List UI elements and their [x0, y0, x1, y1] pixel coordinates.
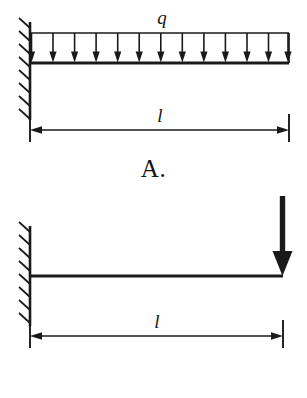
- load-arrow: [93, 33, 100, 63]
- udl-arrows-a: [28, 33, 292, 63]
- load-arrow: [157, 33, 164, 63]
- figure-c-drawing: l: [0, 196, 307, 398]
- load-arrow: [136, 33, 143, 63]
- load-arrow: [243, 33, 250, 63]
- load-arrow: [114, 33, 121, 63]
- wall-hatching-a: [19, 18, 30, 119]
- load-arrow: [284, 33, 291, 63]
- fixed-support-wall-a: [19, 18, 30, 120]
- load-arrow: [179, 33, 186, 63]
- fixed-support-wall-c: [19, 222, 30, 326]
- load-arrow: [200, 33, 207, 63]
- load-symbol-q: q: [157, 7, 167, 28]
- figure-a-udl-cantilever: q l A.: [0, 0, 307, 200]
- load-arrow: [49, 33, 56, 63]
- dimension-symbol-l-a: l: [157, 105, 162, 126]
- diagram-page: q l A.: [0, 0, 307, 398]
- load-arrow: [222, 33, 229, 63]
- point-load-arrow-c: [273, 196, 293, 276]
- figure-c-point-load-cantilever: l C.: [0, 196, 307, 398]
- wall-hatching-c: [19, 222, 30, 323]
- figure-a-caption: A.: [0, 156, 307, 181]
- dimension-symbol-l-c: l: [154, 311, 159, 332]
- load-arrow: [71, 33, 78, 63]
- load-arrow: [265, 33, 272, 63]
